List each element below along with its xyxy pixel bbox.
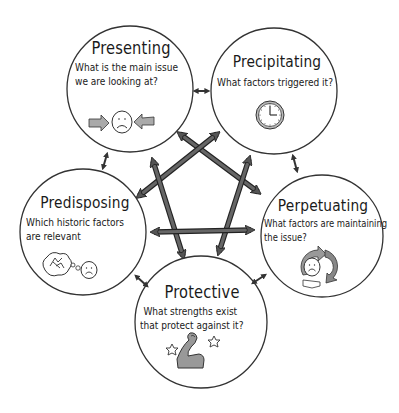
cross-arrows bbox=[139, 134, 258, 256]
node-title-predisposing: Predisposing bbox=[34, 193, 135, 213]
node-question-perpetuating-1: What factors are maintaining bbox=[264, 217, 365, 231]
clock-icon bbox=[256, 101, 284, 129]
arrow-predisposing-perpetuating bbox=[154, 230, 251, 232]
arrow-predisposing-presenting bbox=[103, 154, 107, 168]
node-title-perpetuating: Perpetuating bbox=[272, 196, 373, 216]
node-perpetuating: Perpetuating What factors are maintainin… bbox=[264, 196, 382, 245]
node-question-presenting-1: What is the main issue bbox=[75, 60, 171, 74]
node-question-predisposing-1: Which historic factors bbox=[26, 215, 127, 229]
circle-precipitating bbox=[211, 28, 337, 154]
node-title-presenting: Presenting bbox=[83, 38, 179, 58]
node-title-precipitating: Precipitating bbox=[225, 52, 328, 72]
node-question-precipitating-1: What factors triggered it? bbox=[217, 75, 320, 89]
node-question-protective-2: that protect against it? bbox=[140, 318, 247, 332]
node-presenting: Presenting What is the main issue we are… bbox=[75, 38, 187, 88]
node-question-protective-1: What strengths exist bbox=[140, 304, 247, 318]
node-precipitating: Precipitating What factors triggered it? bbox=[217, 52, 337, 89]
node-predisposing: Predisposing Which historic factors are … bbox=[26, 193, 144, 243]
node-question-presenting-2: we are looking at? bbox=[75, 74, 171, 88]
node-title-protective: Protective bbox=[149, 282, 256, 302]
node-question-perpetuating-2: the issue? bbox=[264, 231, 365, 245]
node-question-predisposing-2: are relevant bbox=[26, 229, 127, 243]
node-protective: Protective What strengths exist that pro… bbox=[140, 282, 264, 332]
arrow-precipitating-perpetuating bbox=[293, 156, 297, 171]
